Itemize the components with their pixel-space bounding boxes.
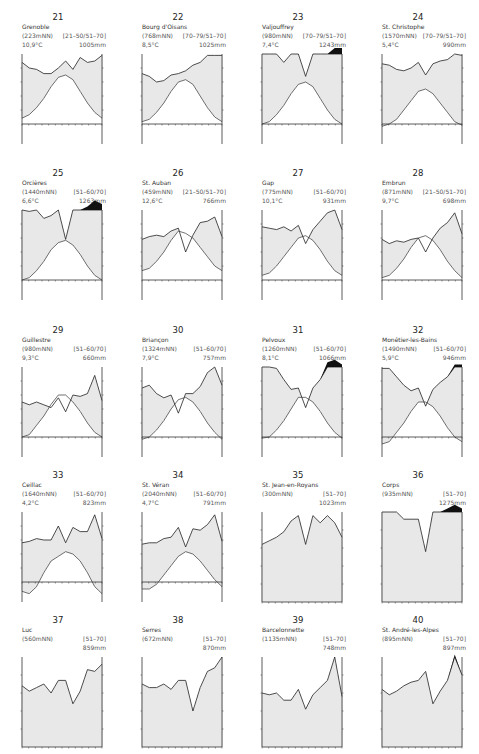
diagram-plot (142, 512, 222, 602)
station-elevation: (980mNN) (262, 32, 293, 39)
observation-period: [51–60/70] (313, 345, 346, 352)
station-elevation: (871mNN) (382, 188, 413, 195)
observation-period: [70–79/51–70] (183, 32, 226, 39)
mean-temperature: 8,1°C (262, 354, 279, 361)
annual-precipitation: 859mm (83, 644, 106, 651)
station-name: St. André-les-Alpes (382, 626, 439, 633)
station-name: Gap (262, 179, 274, 186)
station-elevation: (1135mNN) (262, 635, 297, 642)
diagram-number: 39 (240, 615, 356, 625)
station-name: Ceillac (22, 481, 42, 488)
climate-diagram-32: 32 Monêtier-les-Bains (1490mNN) [51–60/7… (360, 325, 476, 475)
climate-diagram-40: 40 St. André-les-Alpes (895mNN) [51–70] … (360, 615, 476, 754)
station-name: Valjouffrey (262, 23, 294, 30)
station-name: St. Véran (142, 481, 169, 488)
mean-temperature: 5,9°C (382, 354, 399, 361)
diagram-plot (22, 210, 102, 300)
station-elevation: (775mNN) (262, 188, 293, 195)
diagram-number: 32 (360, 325, 476, 335)
annual-precipitation: 1005mm (79, 41, 106, 48)
mean-temperature: 9,7°C (382, 197, 399, 204)
diagram-number: 23 (240, 12, 356, 22)
climate-diagram-30: 30 Briançon (1324mNN) [51–60/70] 7,9°C 7… (120, 325, 236, 475)
observation-period: [51–60/70] (313, 188, 346, 195)
station-name: Serres (142, 626, 161, 633)
diagram-plot (262, 512, 342, 602)
annual-precipitation: 897mm (443, 644, 466, 651)
diagram-number: 24 (360, 12, 476, 22)
climate-diagram-24: 24 St. Christophe (1570mNN) [70–79/51–70… (360, 12, 476, 162)
mean-temperature: 8,5°C (142, 41, 159, 48)
diagram-plot (262, 54, 342, 144)
observation-period: [51–70] (83, 635, 106, 642)
climate-diagram-35: 35 St. Jean-en-Royans (300mNN) [51–70] 1… (240, 470, 356, 620)
diagram-number: 35 (240, 470, 356, 480)
climate-diagram-21: 21 Grenoble (223mNN) [21–50/51–70] 10,9°… (0, 12, 116, 162)
observation-period: [51–60/70] (193, 490, 226, 497)
climate-diagram-29: 29 Guillestre (980mNN) [51–60/70] 9,3°C … (0, 325, 116, 475)
diagram-number: 25 (0, 168, 116, 178)
mean-temperature: 10,1°C (262, 197, 283, 204)
annual-precipitation: 1243mm (319, 41, 346, 48)
annual-precipitation: 757mm (203, 354, 226, 361)
annual-precipitation: 660mm (83, 354, 106, 361)
annual-precipitation: 748mm (323, 644, 346, 651)
observation-period: [21–50/51–70] (423, 188, 466, 195)
annual-precipitation: 931mm (323, 197, 346, 204)
observation-period: [21–50/51–70] (63, 32, 106, 39)
diagram-plot (382, 657, 462, 747)
station-name: Pelvoux (262, 336, 285, 343)
climate-diagram-38: 38 Serres (672mNN) [51–70] 870mm (120, 615, 236, 754)
station-elevation: (459mNN) (142, 188, 173, 195)
station-name: St. Jean-en-Royans (262, 481, 318, 488)
annual-precipitation: 791mm (203, 499, 226, 506)
diagram-plot (22, 657, 102, 747)
observation-period: [51–60/70] (73, 345, 106, 352)
climate-diagram-37: 37 Luc (560mNN) [51–70] 859mm (0, 615, 116, 754)
annual-precipitation: 1023mm (319, 499, 346, 506)
observation-period: [70–79/51–70] (423, 32, 466, 39)
observation-period: [21–50/51–70] (183, 188, 226, 195)
station-name: Corps (382, 481, 399, 488)
annual-precipitation: 1066mm (319, 354, 346, 361)
station-elevation: (1570mNN) (382, 32, 417, 39)
diagram-plot (142, 367, 222, 457)
observation-period: [51–70] (323, 635, 346, 642)
diagram-plot (382, 54, 462, 144)
diagram-plot (262, 657, 342, 747)
diagram-number: 31 (240, 325, 356, 335)
diagram-number: 30 (120, 325, 236, 335)
station-name: Barcelonnette (262, 626, 304, 633)
diagram-number: 21 (0, 12, 116, 22)
station-elevation: (1324mNN) (142, 345, 177, 352)
climate-diagram-27: 27 Gap (775mNN) [51–60/70] 10,1°C 931mm (240, 168, 356, 318)
station-name: Bourg d'Oisans (142, 23, 187, 30)
diagram-number: 36 (360, 470, 476, 480)
station-name: St. Auban (142, 179, 171, 186)
mean-temperature: 5,4°C (382, 41, 399, 48)
station-elevation: (223mNN) (22, 32, 53, 39)
mean-temperature: 10,9°C (22, 41, 43, 48)
station-elevation: (300mNN) (262, 490, 293, 497)
mean-temperature: 7,4°C (262, 41, 279, 48)
mean-temperature: 12,6°C (142, 197, 163, 204)
station-name: St. Christophe (382, 23, 425, 30)
station-elevation: (1640mNN) (22, 490, 57, 497)
station-name: Embrun (382, 179, 406, 186)
climate-diagram-36: 36 Corps (935mNN) [51–70] 1275mm (360, 470, 476, 620)
diagram-number: 38 (120, 615, 236, 625)
observation-period: [51–70] (443, 490, 466, 497)
station-elevation: (560mNN) (22, 635, 53, 642)
station-name: Monêtier-les-Bains (382, 336, 437, 343)
mean-temperature: 9,3°C (22, 354, 39, 361)
climate-diagram-23: 23 Valjouffrey (980mNN) [70–79/51–70] 7,… (240, 12, 356, 162)
climate-diagram-31: 31 Pelvoux (1260mNN) [51–60/70] 8,1°C 10… (240, 325, 356, 475)
mean-temperature: 4,7°C (142, 499, 159, 506)
station-elevation: (895mNN) (382, 635, 413, 642)
annual-precipitation: 870mm (203, 644, 226, 651)
mean-temperature: 7,9°C (142, 354, 159, 361)
station-elevation: (768mNN) (142, 32, 173, 39)
annual-precipitation: 1025mm (199, 41, 226, 48)
diagram-number: 33 (0, 470, 116, 480)
diagram-number: 34 (120, 470, 236, 480)
